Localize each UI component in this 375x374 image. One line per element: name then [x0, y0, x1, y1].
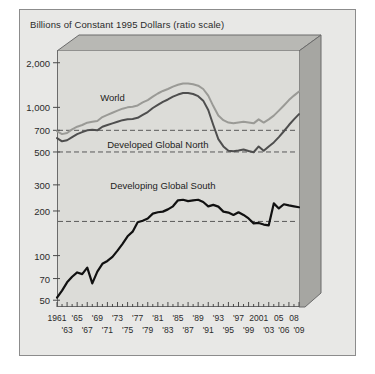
y-tick-label: 1,000 [20, 102, 50, 113]
y-tick-label: 50 [20, 295, 50, 306]
x-tick-label-bottom: '99 [243, 325, 254, 335]
x-tick-label-bottom: '79 [142, 325, 153, 335]
y-tick-label: 70 [20, 273, 50, 284]
y-tick-label: 700 [20, 125, 50, 136]
x-tick-label-top: '89 [193, 313, 204, 323]
x-tick-label-top: '97 [233, 313, 244, 323]
chart-figure: Billions of Constant 1995 Dollars (ratio… [19, 9, 356, 356]
x-tick-label-bottom: '83 [162, 325, 173, 335]
y-tick-label: 100 [20, 250, 50, 261]
x-tick-label-bottom: '95 [223, 325, 234, 335]
y-tick-label: 2,000 [20, 57, 50, 68]
x-tick-label-bottom: '09 [293, 325, 304, 335]
x-tick-label-bottom: '71 [102, 325, 113, 335]
series-annotation: Developing Global South [110, 180, 215, 191]
y-tick-label: 200 [20, 205, 50, 216]
y-tick-label: 300 [20, 179, 50, 190]
x-tick-label-bottom: '03 [263, 325, 274, 335]
series-line-developing-global-south [57, 200, 299, 298]
x-tick-label-bottom: '67 [82, 325, 93, 335]
x-tick-label-top: '65 [72, 313, 83, 323]
x-tick-label-bottom: '75 [122, 325, 133, 335]
x-tick-label-top: '85 [172, 313, 183, 323]
series-annotation: World [100, 92, 125, 103]
x-tick-label-bottom: '91 [203, 325, 214, 335]
x-tick-label-top: '81 [152, 313, 163, 323]
x-tick-label-top: 05 [274, 313, 283, 323]
x-tick-label-top: 1961 [48, 313, 67, 323]
x-tick-label-top: '93 [213, 313, 224, 323]
x-tick-label-top: 08 [289, 313, 298, 323]
x-tick-label-bottom: '63 [62, 325, 73, 335]
x-tick-label-top: '69 [92, 313, 103, 323]
x-tick-label-top: '73 [112, 313, 123, 323]
x-tick-label-top: 2001 [249, 313, 268, 323]
x-tick-label-bottom: '87 [183, 325, 194, 335]
y-tick-label: 500 [20, 146, 50, 157]
x-tick-label-bottom: '06 [278, 325, 289, 335]
series-line-world [57, 83, 299, 134]
x-tick-label-top: '77 [132, 313, 143, 323]
series-annotation: Developed Global North [107, 139, 208, 150]
